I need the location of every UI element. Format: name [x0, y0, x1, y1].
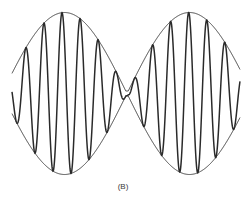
beat-waveform-diagram	[0, 0, 246, 199]
figure-caption: (B)	[0, 182, 246, 191]
envelope-lower-curve	[12, 96, 240, 175]
modulated-carrier-wave	[12, 13, 240, 174]
